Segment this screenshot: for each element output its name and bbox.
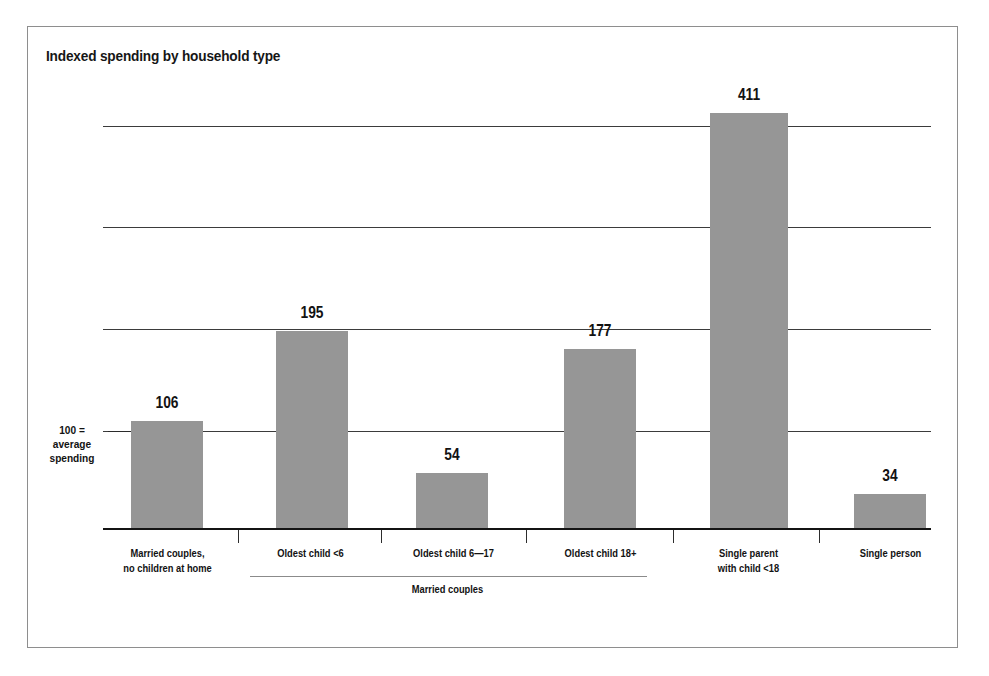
category-tick-3 <box>526 530 527 543</box>
gridline-300 <box>103 227 931 228</box>
annotation-line-2: average <box>40 437 103 451</box>
gridline-400 <box>103 126 931 127</box>
category-tick-5 <box>819 530 820 543</box>
category-label-single-person: Single person <box>831 546 950 561</box>
category-tick-4 <box>673 530 674 543</box>
category-label-line-1: Single person <box>831 546 950 561</box>
plot-area: 100 = average spending 106 195 54 177 41… <box>28 27 957 647</box>
category-label-oldest-child-6-17: Oldest child 6—17 <box>394 546 513 561</box>
category-label-line-1: Single parent <box>689 546 808 561</box>
category-label-line-1: Married couples, <box>108 546 227 561</box>
bar-value-1: 195 <box>281 304 343 322</box>
axis-baseline <box>103 528 931 530</box>
category-tick-1 <box>238 530 239 543</box>
bar-value-2: 54 <box>421 446 483 464</box>
category-label-oldest-child-18-plus: Oldest child 18+ <box>541 546 660 561</box>
bar-oldest-child-18-plus <box>564 349 636 528</box>
group-label-married-couples: Married couples <box>388 583 507 595</box>
annotation-line-3: spending <box>40 451 103 465</box>
category-label-line-1: Oldest child 6—17 <box>394 546 513 561</box>
bar-oldest-child-6-17 <box>416 473 488 528</box>
group-bracket-married-couples <box>250 576 647 577</box>
gridline-200 <box>103 329 931 330</box>
bar-single-parent-with-child <box>710 113 788 528</box>
category-label-line-1: Oldest child 18+ <box>541 546 660 561</box>
category-tick-2 <box>381 530 382 543</box>
bar-value-3: 177 <box>569 322 631 340</box>
bar-oldest-child-under-6 <box>276 331 348 528</box>
category-label-single-parent: Single parent with child <18 <box>689 546 808 576</box>
bar-married-no-children <box>131 421 203 528</box>
category-label-line-2: with child <18 <box>689 561 808 576</box>
category-label-oldest-child-under-6: Oldest child <6 <box>251 546 370 561</box>
annotation-line-1: 100 = <box>40 423 103 437</box>
bar-value-4: 411 <box>715 86 782 104</box>
annotation-leader-line <box>108 431 132 432</box>
baseline-annotation: 100 = average spending <box>40 423 103 465</box>
bar-value-5: 34 <box>859 467 921 485</box>
chart-figure-frame: Indexed spending by household type 100 =… <box>27 26 958 648</box>
bar-value-0: 106 <box>136 394 198 412</box>
bar-single-person <box>854 494 926 528</box>
category-label-married-no-children: Married couples, no children at home <box>108 546 227 576</box>
gridline-100 <box>103 431 931 432</box>
category-label-line-2: no children at home <box>108 561 227 576</box>
category-label-line-1: Oldest child <6 <box>251 546 370 561</box>
